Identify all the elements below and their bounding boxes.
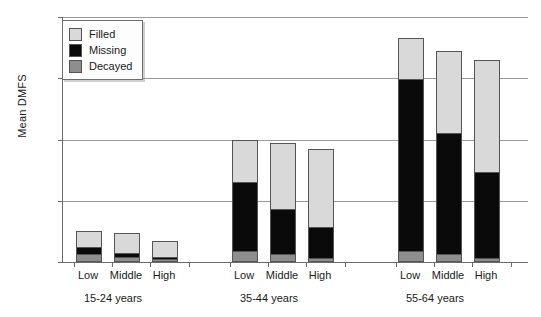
bar-segment-missing [77, 248, 101, 255]
x-tick-mark [112, 262, 113, 267]
bar-segment-filled [399, 39, 423, 80]
x-tick-mark [230, 262, 231, 267]
x-tick-label-high: High [134, 269, 194, 281]
legend-label-decayed: Decayed [89, 61, 132, 72]
bar-55-64-years-high [474, 60, 500, 262]
bar-segment-filled [233, 141, 257, 183]
bar-segment-filled [77, 232, 101, 248]
x-tick-mark [268, 262, 269, 267]
x-tick-mark [345, 262, 346, 267]
bar-segment-decayed [309, 259, 333, 261]
x-tick-mark [150, 262, 151, 267]
x-tick-mark [189, 262, 190, 267]
bar-segment-missing [309, 228, 333, 259]
bar-segment-missing [475, 173, 499, 259]
x-tick-mark [472, 262, 473, 267]
bar-55-64-years-middle [436, 51, 462, 262]
bar-segment-decayed [399, 252, 423, 261]
legend-item-filled: Filled [69, 26, 132, 42]
y-tick-mark [58, 17, 63, 18]
x-group-label: 35-44 years [199, 292, 339, 304]
x-tick-mark [511, 262, 512, 267]
bar-segment-decayed [233, 252, 257, 261]
bar-segment-filled [115, 234, 139, 254]
bar-segment-decayed [437, 255, 461, 261]
bar-35-44-years-low [232, 140, 258, 263]
bar-segment-filled [309, 150, 333, 228]
chart-root: Mean DMFS Filled Missing Decayed 0204060… [0, 0, 541, 317]
bar-segment-filled [153, 242, 177, 258]
bar-segment-filled [475, 61, 499, 173]
bar-segment-missing [271, 210, 295, 255]
x-tick-mark [74, 262, 75, 267]
x-tick-mark [434, 262, 435, 267]
legend-item-decayed: Decayed [69, 58, 132, 74]
bar-15-24-years-high [152, 241, 178, 262]
bar-segment-filled [437, 52, 461, 134]
bar-segment-decayed [271, 255, 295, 261]
legend-item-missing: Missing [69, 42, 132, 58]
bar-segment-decayed [475, 259, 499, 261]
bar-segment-missing [437, 134, 461, 255]
bar-segment-filled [271, 144, 295, 210]
bar-segment-decayed [153, 260, 177, 261]
legend-swatch-decayed-icon [69, 60, 82, 73]
legend-swatch-filled-icon [69, 28, 82, 41]
x-tick-mark [306, 262, 307, 267]
bar-segment-missing [233, 183, 257, 252]
legend: Filled Missing Decayed [62, 20, 143, 80]
bar-15-24-years-middle [114, 233, 140, 262]
x-tick-mark [396, 262, 397, 267]
legend-swatch-missing-icon [69, 44, 82, 57]
y-tick-mark [58, 201, 63, 202]
x-tick-label-high: High [456, 269, 516, 281]
x-axis-line [62, 262, 528, 263]
bar-segment-decayed [115, 258, 139, 261]
y-axis-title: Mean DMFS [16, 46, 28, 166]
x-group-label: 15-24 years [43, 292, 183, 304]
bar-55-64-years-low [398, 38, 424, 262]
bar-35-44-years-high [308, 149, 334, 262]
bar-segment-missing [399, 80, 423, 251]
x-tick-label-high: High [290, 269, 350, 281]
y-tick-mark [58, 140, 63, 141]
bar-35-44-years-middle [270, 143, 296, 262]
x-group-label: 55-64 years [365, 292, 505, 304]
legend-label-filled: Filled [89, 29, 115, 40]
bar-15-24-years-low [76, 231, 102, 262]
bar-segment-decayed [77, 255, 101, 261]
gridline [63, 17, 528, 18]
legend-label-missing: Missing [89, 45, 126, 56]
